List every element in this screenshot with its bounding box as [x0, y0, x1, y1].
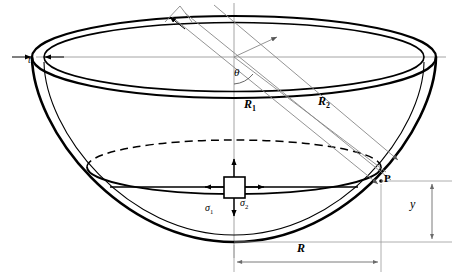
radius-1-line	[165, 6, 391, 184]
stress-sigma-2-label: σ2	[240, 198, 248, 211]
thickness-label: t	[28, 55, 31, 65]
radius-label: R	[297, 242, 305, 254]
shell-diagram-svg	[0, 0, 465, 278]
point-p-label: P	[384, 173, 391, 184]
radius-dimension	[234, 184, 381, 272]
stress-element-square	[224, 177, 245, 198]
r2-leader-b	[234, 57, 386, 172]
stress-element	[110, 159, 358, 216]
radius-2-label: R2	[318, 95, 330, 110]
radius-1-label: R1	[244, 98, 256, 113]
perpendicular-marker-icon	[165, 6, 192, 22]
depth-label: y	[410, 198, 415, 210]
depth-dimension	[234, 181, 452, 242]
r1-leader-b	[185, 13, 391, 180]
construction-lines	[36, 3, 446, 258]
angle-theta-label: θ	[234, 67, 239, 78]
stress-sigma-1-label: σ1	[205, 203, 213, 216]
figure-canvas: t θ R1 R2 σ1 σ2 P y R	[0, 0, 465, 278]
r1-leader-a	[172, 17, 378, 184]
